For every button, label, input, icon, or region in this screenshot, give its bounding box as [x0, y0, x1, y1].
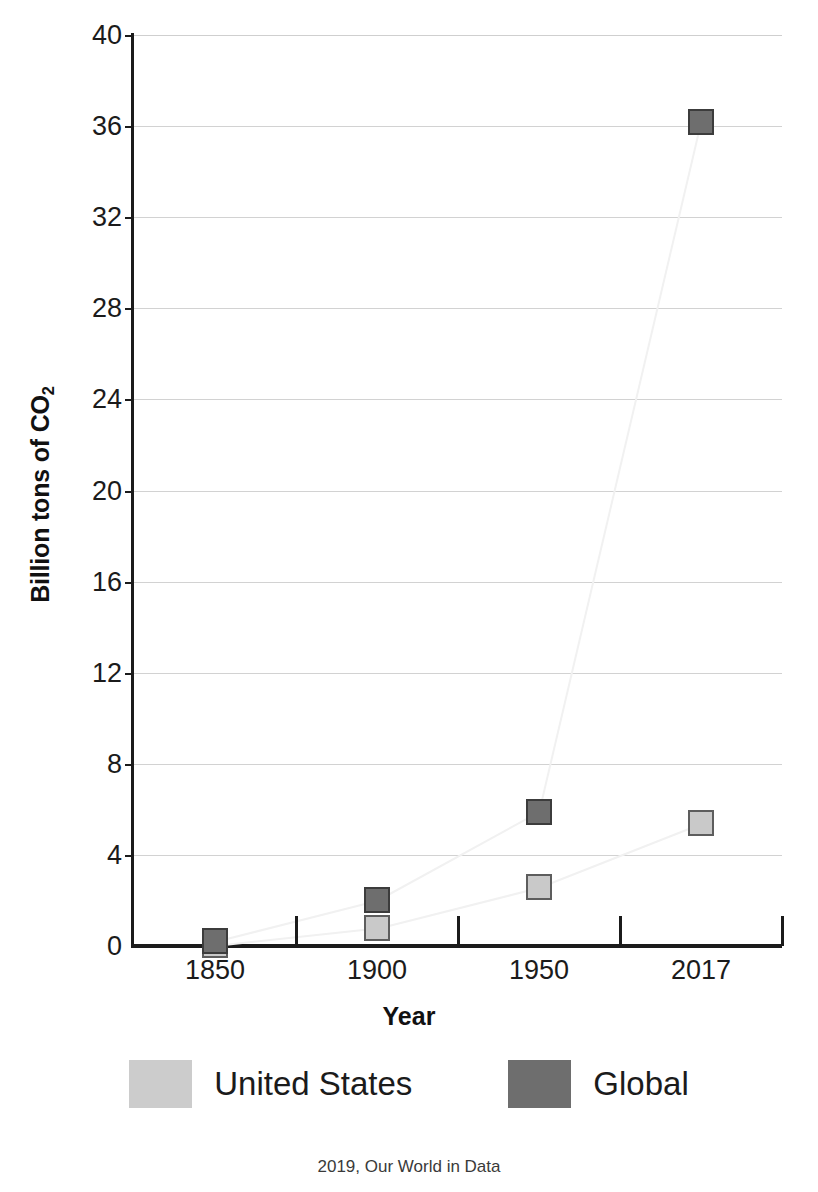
- x-axis-tick-label: 1950: [459, 955, 619, 986]
- y-axis-tick-label: 28: [12, 293, 122, 324]
- legend-item-global: Global: [508, 1060, 688, 1108]
- y-axis-tick-label: 20: [12, 475, 122, 506]
- y-axis-tick: [125, 217, 134, 219]
- gridline: [134, 491, 782, 492]
- y-axis-tick: [125, 126, 134, 128]
- series-connector-line: [377, 812, 540, 903]
- y-axis-tick: [125, 491, 134, 493]
- y-axis-tick-label: 24: [12, 384, 122, 415]
- y-axis-tick: [125, 673, 134, 675]
- series-connector-line: [539, 823, 702, 889]
- x-axis-tick: [457, 916, 460, 946]
- y-axis-tick: [125, 855, 134, 857]
- y-axis-tick: [125, 582, 134, 584]
- y-axis-tick: [125, 399, 134, 401]
- x-axis-tick-label: 2017: [621, 955, 781, 986]
- x-axis-tick: [295, 916, 298, 946]
- legend-swatch-icon: [129, 1060, 192, 1108]
- y-axis-tick-label: 16: [12, 566, 122, 597]
- y-axis-tick-label: 12: [12, 657, 122, 688]
- y-axis-tick-label: 8: [12, 748, 122, 779]
- legend-swatch-icon: [508, 1060, 571, 1108]
- data-point-marker: [364, 915, 390, 941]
- y-axis-tick: [125, 764, 134, 766]
- y-axis-tick: [125, 308, 134, 310]
- data-point-marker: [202, 928, 228, 954]
- gridline: [134, 673, 782, 674]
- x-axis-title: Year: [0, 1002, 818, 1031]
- gridline: [134, 217, 782, 218]
- data-point-marker: [526, 799, 552, 825]
- series-connector-line: [538, 122, 702, 813]
- gridline: [134, 126, 782, 127]
- legend-item-us: United States: [129, 1060, 412, 1108]
- data-point-marker: [526, 874, 552, 900]
- chart-credit: 2019, Our World in Data: [0, 1157, 818, 1177]
- y-axis-tick: [125, 35, 134, 37]
- x-axis-tick: [619, 916, 622, 946]
- y-axis-tick-label: 32: [12, 202, 122, 233]
- data-point-marker: [364, 887, 390, 913]
- x-axis-tick-label: 1850: [135, 955, 295, 986]
- y-axis-tick-label: 0: [12, 931, 122, 962]
- y-axis-tick-label: 36: [12, 111, 122, 142]
- y-axis-tick-label: 40: [12, 20, 122, 51]
- gridline: [134, 764, 782, 765]
- data-point-marker: [688, 810, 714, 836]
- legend-label: Global: [593, 1065, 688, 1103]
- x-axis-tick: [781, 916, 784, 946]
- plot-area: [134, 35, 782, 946]
- chart-figure: Billion tons of CO2 0481216202428323640 …: [0, 0, 818, 1192]
- chart-legend: United StatesGlobal: [0, 1060, 818, 1108]
- gridline: [134, 582, 782, 583]
- gridline: [134, 308, 782, 309]
- legend-label: United States: [214, 1065, 412, 1103]
- y-axis-tick-label: 4: [12, 839, 122, 870]
- x-axis-tick-label: 1900: [297, 955, 457, 986]
- gridline: [134, 399, 782, 400]
- data-point-marker: [688, 109, 714, 135]
- gridline: [134, 35, 782, 36]
